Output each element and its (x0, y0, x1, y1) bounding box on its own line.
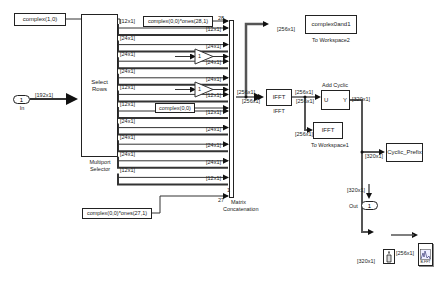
signal-label-to-buffer: [320x1] (357, 258, 375, 264)
bfft-scope-block[interactable]: B-FFT (418, 243, 433, 266)
inport-number: 1 (20, 97, 23, 103)
signal-label-concat-in: [24x1] (206, 142, 221, 148)
ifft-name: IFFT (266, 108, 292, 115)
signal-label-ifft-out-2: [256x1] (296, 98, 314, 104)
signal-line (350, 100, 370, 232)
addcp-name-1: Add Cyclic (320, 82, 350, 89)
to-workspace2-name: To Workspace2 (305, 37, 357, 44)
spectrum-icon (420, 249, 431, 260)
cyclic-prefix-block[interactable]: Cyclic_Prefix (386, 143, 423, 162)
signal-label-concat-in: [12x1] (206, 175, 221, 181)
signal-label-in: [192x1] (35, 92, 53, 98)
signal-label-to-ws2: [256x1] (277, 26, 295, 32)
constant-zeros-28[interactable]: complex(0,0)*ones(28,1) (143, 16, 213, 27)
gain-2-value: 1 (198, 86, 201, 92)
gain-1-value: 1 (198, 53, 201, 59)
signal-label-selector-out: [12x1] (120, 101, 135, 107)
add-cyclic-prefix-block[interactable]: U Y (321, 90, 350, 110)
to-workspace2-block[interactable]: complex0and1 (305, 15, 357, 34)
signal-label-concat-in: [24x1] (206, 76, 221, 82)
signal-label-buffer-out: [256x1] (396, 250, 414, 256)
signal-label-concat-in: [24x1] (206, 43, 221, 49)
selector-text-2: Rows (92, 86, 107, 93)
signal-label-concat-in: [12x1] (206, 109, 221, 115)
signal-label-to-ws1: [256x1] (295, 131, 313, 137)
outport-out[interactable]: 1 (361, 201, 378, 210)
signal-label-to-out: [320x1] (347, 187, 365, 193)
signal-line (246, 24, 266, 97)
signal-label-ifft-out: [256x1] (295, 89, 313, 95)
concat-port-1: 1 (227, 187, 230, 193)
inport-in[interactable]: 1 (13, 95, 30, 104)
signal-label-concat-in: [12x1] (206, 92, 221, 98)
addcp-port-y: Y (343, 97, 347, 104)
signal-label-selector-out: [24x1] (120, 51, 135, 57)
matrix-concatenation[interactable] (229, 20, 234, 198)
signal-label-concat-in: [24x1] (206, 59, 221, 65)
outport-number: 1 (368, 203, 371, 209)
signal-label-concat-out-2: [256x1] (242, 98, 260, 104)
selector-name-1: Multiport (80, 159, 120, 166)
signal-label-selector-out: [24x1] (120, 151, 135, 157)
signal-label-selector-out: [12x1] (120, 167, 135, 173)
addcp-port-u: U (324, 97, 328, 104)
to-workspace1-block[interactable]: IFFT (313, 122, 343, 139)
constant-complex-1-0[interactable]: complex(1,0) (14, 13, 66, 26)
to-workspace1-name: To Workspace1 (311, 142, 347, 149)
buffer-icon (385, 251, 393, 263)
signal-label-selector-out: [24x1] (120, 35, 135, 41)
selector-text-1: Select (91, 79, 108, 86)
constant-complex-0-0[interactable]: complex(0,0) (155, 103, 195, 113)
signal-label-selector-out: [24x1] (120, 68, 135, 74)
selector-name-2: Selector (80, 166, 120, 173)
selector-name: Multiport Selector (80, 159, 120, 173)
signal-label-selector-out: [12x1] (120, 18, 135, 24)
outport-label: Out (349, 203, 358, 209)
signal-label-selector-out: [24x1] (120, 118, 135, 124)
signal-label-concat-out: [256x1] (237, 89, 255, 95)
signal-label-cp-to-block: [320x1] (365, 153, 383, 159)
signal-label-selector-out: [12x1] (120, 84, 135, 90)
signal-label-selector-out: [24x1] (120, 134, 135, 140)
signal-label-concat-in: [12x1] (206, 26, 221, 32)
concat-name-1: Matrix (231, 199, 258, 206)
signal-label-concat-in: [24x1] (206, 126, 221, 132)
concat-name-2: Concatenation (223, 206, 258, 213)
bfft-label: B-FFT (421, 260, 431, 265)
inport-label: In (14, 105, 30, 112)
constant-zeros-27[interactable]: complex(0,0)*ones(27,1) (82, 208, 152, 219)
signal-line (152, 196, 228, 213)
multiport-selector[interactable]: Select Rows (81, 14, 118, 157)
concat-port-28: 28 (218, 15, 224, 21)
signal-label-concat-in: [24x1] (206, 159, 221, 165)
diagram-canvas (0, 0, 448, 284)
buffer-block[interactable] (383, 249, 395, 264)
ifft-block[interactable]: IFFT (266, 89, 292, 106)
signal-label-cp-out: [320x1] (352, 96, 370, 102)
concat-port-27: 27 (218, 197, 224, 203)
concat-name: Matrix Concatenation (231, 199, 258, 213)
